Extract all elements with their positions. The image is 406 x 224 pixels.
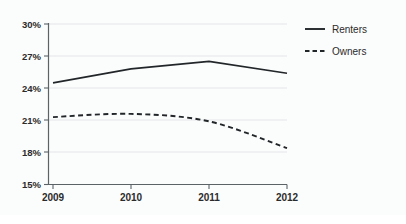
y-tick-label-15: 15%: [22, 179, 42, 190]
y-tick-label-21: 21%: [22, 115, 42, 126]
axes: [48, 23, 287, 185]
x-axis-ticks: [53, 185, 287, 190]
chart-legend: Renters Owners: [305, 24, 367, 57]
x-tick-label-2011: 2011: [198, 192, 220, 203]
x-tick-label-2012: 2012: [276, 192, 299, 203]
data-series: [53, 61, 287, 148]
y-axis-tick-labels: 30% 27% 24% 21% 18% 15%: [22, 19, 42, 191]
y-tick-label-27: 27%: [22, 51, 42, 62]
x-tick-label-2010: 2010: [120, 192, 143, 203]
series-line-owners: [53, 114, 287, 148]
chart-plot-svg: 30% 27% 24% 21% 18% 15% 2009 2010 2011 2…: [0, 0, 406, 224]
legend-label-owners: Owners: [332, 46, 366, 57]
y-axis-ticks: [44, 24, 49, 185]
series-line-renters: [53, 61, 287, 82]
y-tick-label-30: 30%: [22, 19, 42, 30]
gridlines: [48, 24, 287, 152]
legend-label-renters: Renters: [332, 24, 367, 35]
x-tick-label-2009: 2009: [42, 192, 65, 203]
y-tick-label-24: 24%: [22, 83, 42, 94]
line-chart: 30% 27% 24% 21% 18% 15% 2009 2010 2011 2…: [0, 0, 406, 224]
y-tick-label-18: 18%: [22, 147, 42, 158]
x-axis-tick-labels: 2009 2010 2011 2012: [42, 192, 299, 203]
